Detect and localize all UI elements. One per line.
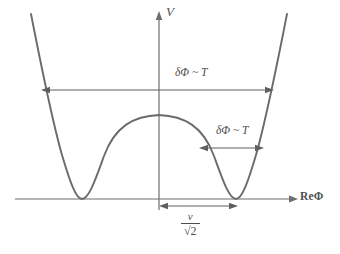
vev-width-left-arrowhead [159, 203, 168, 209]
potential-diagram: V ReΦ δΦ ~ T δΦ ~ T v √2 [0, 0, 340, 254]
inner-width-left-arrowhead [199, 145, 208, 151]
vev-numerator: v [181, 211, 200, 223]
vertical-axis-arrowhead [156, 11, 163, 20]
horizontal-axis-arrowhead [289, 196, 298, 203]
plot-canvas [0, 0, 340, 254]
vev-denominator: √2 [181, 225, 200, 238]
horizontal-axis-label: ReΦ [300, 190, 324, 202]
vev-width-right-arrowhead [229, 203, 238, 209]
inner-width-label: δΦ ~ T [216, 124, 248, 136]
vev-fraction-label: v √2 [181, 211, 200, 238]
vertical-axis-label: V [166, 4, 174, 20]
outer-width-label: δΦ ~ T [175, 66, 207, 78]
